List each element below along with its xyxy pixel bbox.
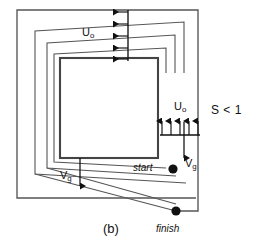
figure-caption: (b) bbox=[103, 222, 119, 235]
label-start-point: start bbox=[133, 163, 152, 173]
spiral-loop-3 bbox=[47, 35, 176, 176]
cutting-speed-arrows-top bbox=[113, 10, 128, 61]
label-feed-left: Vg bbox=[60, 170, 72, 181]
finish-point-marker bbox=[171, 206, 180, 215]
finish-run-path bbox=[176, 73, 198, 211]
label-stepover-ratio: S < 1 bbox=[211, 104, 242, 116]
spiral-loop-4 bbox=[54, 48, 166, 168]
start-point-marker bbox=[168, 164, 177, 173]
inner-pocket-square bbox=[60, 58, 158, 158]
label-cutting-speed-right: Uo bbox=[174, 101, 186, 112]
label-finish-point: finish bbox=[156, 224, 179, 234]
label-feed-right: Vg bbox=[185, 158, 197, 169]
figure-spiral-toolpath-b: Uo Uo S < 1 Vg Vg start finish (b) bbox=[0, 0, 258, 241]
cutting-speed-arrows-right bbox=[160, 121, 200, 135]
label-cutting-speed-top: Uo bbox=[82, 27, 94, 38]
diagram-canvas bbox=[0, 0, 258, 241]
